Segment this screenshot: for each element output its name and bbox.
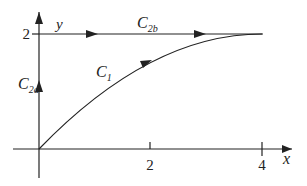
c2b-path: C2b: [39, 14, 263, 38]
y-tick-label-2: 2: [23, 26, 31, 42]
c2b-label: C2b: [137, 14, 158, 34]
x-tick-label-4: 4: [258, 157, 266, 173]
c1-label: C1: [96, 63, 112, 83]
c2b-direction-arrow-icon-2: [194, 30, 206, 38]
x-axis-label: x: [282, 150, 290, 167]
y-axis-label: y: [54, 16, 63, 32]
y-axis: 2 y: [23, 12, 64, 178]
line-integral-diagram: 2 4 x 2 y C2a C2b C1: [0, 0, 307, 186]
x-tick-label-2: 2: [146, 157, 154, 173]
y-axis-arrow-icon: [35, 12, 43, 24]
x-axis: 2 4 x: [13, 142, 292, 173]
c2a-label: C2a: [18, 75, 39, 95]
c2b-direction-arrow-icon: [86, 30, 98, 38]
c1-path: C1: [39, 34, 262, 149]
